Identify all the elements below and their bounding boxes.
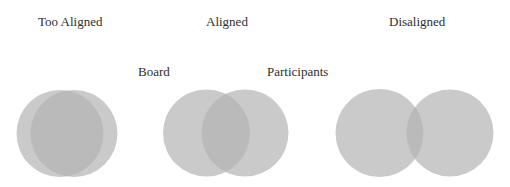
participants-circle [31,90,118,177]
venn-diagrams [0,0,510,187]
participants-circle [407,90,494,177]
venn-too-aligned [17,90,118,177]
venn-disaligned [336,89,494,177]
venn-aligned [163,90,289,177]
participants-circle [202,90,289,177]
